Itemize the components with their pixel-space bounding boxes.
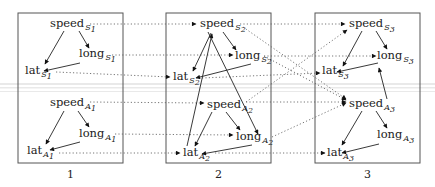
temporal-edge [272,103,346,137]
panel-label: 3 [364,168,371,181]
causal-edge [342,111,362,145]
node-longS3: longS3 [377,48,414,66]
causal-edge [78,111,89,127]
causal-edge [343,31,362,66]
causal-edge [45,31,64,64]
band [0,91,435,92]
node-latA2: latA2 [183,145,210,163]
node-latA3: latA3 [327,145,354,163]
node-speedA3: speedA3 [349,96,395,114]
scan-artifact-bands [0,83,435,92]
panel-label: 1 [67,168,74,181]
band [0,83,435,85]
temporal-edge [115,134,233,135]
node-speedA2: speedA2 [207,97,253,115]
node-speedA1: speedA1 [50,95,96,113]
node-longA1: longA1 [79,126,116,144]
node-longA3: longA3 [377,127,414,145]
causal-edge [187,34,212,146]
node-latA1: latA1 [27,143,54,161]
panel-label: 2 [215,168,222,181]
node-speedS3: speedS3 [349,16,395,34]
node-longS2: longS2 [235,48,272,66]
temporal-edge [202,73,320,78]
causal-edge [376,31,387,49]
node-latS1: latS1 [25,63,52,81]
temporal-edge [90,102,204,103]
node-speedS2: speedS2 [200,16,246,34]
node-longS1: longS1 [79,46,116,64]
causal-edge [50,142,80,150]
causal-edge [195,112,212,146]
band [0,87,435,89]
causal-edge [44,63,80,71]
node-latS3: latS3 [322,63,349,81]
temporal-edge [56,72,170,77]
node-longA2: longA2 [236,129,273,147]
diagram-canvas: 123 speedS1longS1latS1speedA1longA1latA1… [0,0,435,187]
node-speedS1: speedS1 [50,16,96,34]
causal-edge [226,112,240,130]
causal-edge [376,111,387,128]
causal-edge [46,111,64,144]
